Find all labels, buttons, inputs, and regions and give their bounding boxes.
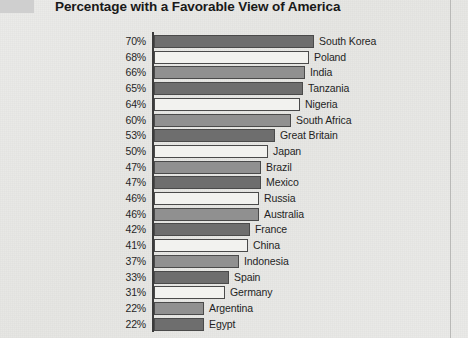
bar-value-label: 47% <box>0 176 146 188</box>
bar-category-label: Brazil <box>266 161 292 173</box>
bar-value-label: 68% <box>0 51 146 63</box>
bar-value-label: 33% <box>0 271 146 283</box>
bar <box>154 176 261 189</box>
bar-value-label: 41% <box>0 239 146 251</box>
bar-value-label: 64% <box>0 98 146 110</box>
bar <box>154 302 204 315</box>
bar-category-label: China <box>253 239 280 251</box>
bar-value-label: 46% <box>0 208 146 220</box>
bar-category-label: France <box>255 223 287 235</box>
bar-category-label: Nigeria <box>305 98 338 110</box>
bar <box>154 255 239 268</box>
bar-value-label: 42% <box>0 223 146 235</box>
chart-title: Percentage with a Favorable View of Amer… <box>55 0 340 14</box>
bar-value-label: 65% <box>0 82 146 94</box>
bar-value-label: 60% <box>0 114 146 126</box>
bar-value-label: 22% <box>0 302 146 314</box>
bar <box>154 239 248 252</box>
bar <box>154 286 225 299</box>
bar-category-label: Poland <box>314 51 346 63</box>
bar-category-label: Great Britain <box>280 129 338 141</box>
bar-category-label: Indonesia <box>244 255 289 267</box>
bar <box>154 66 305 79</box>
bar-value-label: 22% <box>0 318 146 330</box>
bar-category-label: India <box>310 66 332 78</box>
bar-category-label: Russia <box>264 192 296 204</box>
bar <box>154 129 275 142</box>
bar-category-label: Spain <box>234 271 260 283</box>
bar <box>154 82 303 95</box>
corner-gray-mark <box>0 0 34 13</box>
bar <box>154 192 259 205</box>
bar-category-label: Tanzania <box>308 82 349 94</box>
bar-category-label: Mexico <box>266 176 299 188</box>
bar <box>154 223 250 236</box>
bar <box>154 114 291 127</box>
bar <box>154 145 268 158</box>
bar-category-label: Argentina <box>209 302 253 314</box>
bar <box>154 208 259 221</box>
bar <box>154 98 300 111</box>
bar-value-label: 31% <box>0 286 146 298</box>
bar-category-label: Australia <box>264 208 304 220</box>
bar-category-label: South Korea <box>319 35 376 47</box>
bar-value-label: 66% <box>0 66 146 78</box>
bar-value-label: 50% <box>0 145 146 157</box>
bar-value-label: 47% <box>0 161 146 173</box>
bar-value-label: 70% <box>0 35 146 47</box>
bar-category-label: South Africa <box>296 114 351 126</box>
bar <box>154 271 229 284</box>
bar-value-label: 53% <box>0 129 146 141</box>
bar-chart-plot-area: 70%South Korea68%Poland66%India65%Tanzan… <box>0 30 468 338</box>
bar-category-label: Japan <box>273 145 301 157</box>
bar <box>154 161 261 174</box>
bar-category-label: Egypt <box>209 318 235 330</box>
bar <box>154 318 204 331</box>
bar <box>154 35 314 48</box>
bar-value-label: 46% <box>0 192 146 204</box>
bar-category-label: Germany <box>230 286 272 298</box>
bar <box>154 51 309 64</box>
bar-value-label: 37% <box>0 255 146 267</box>
